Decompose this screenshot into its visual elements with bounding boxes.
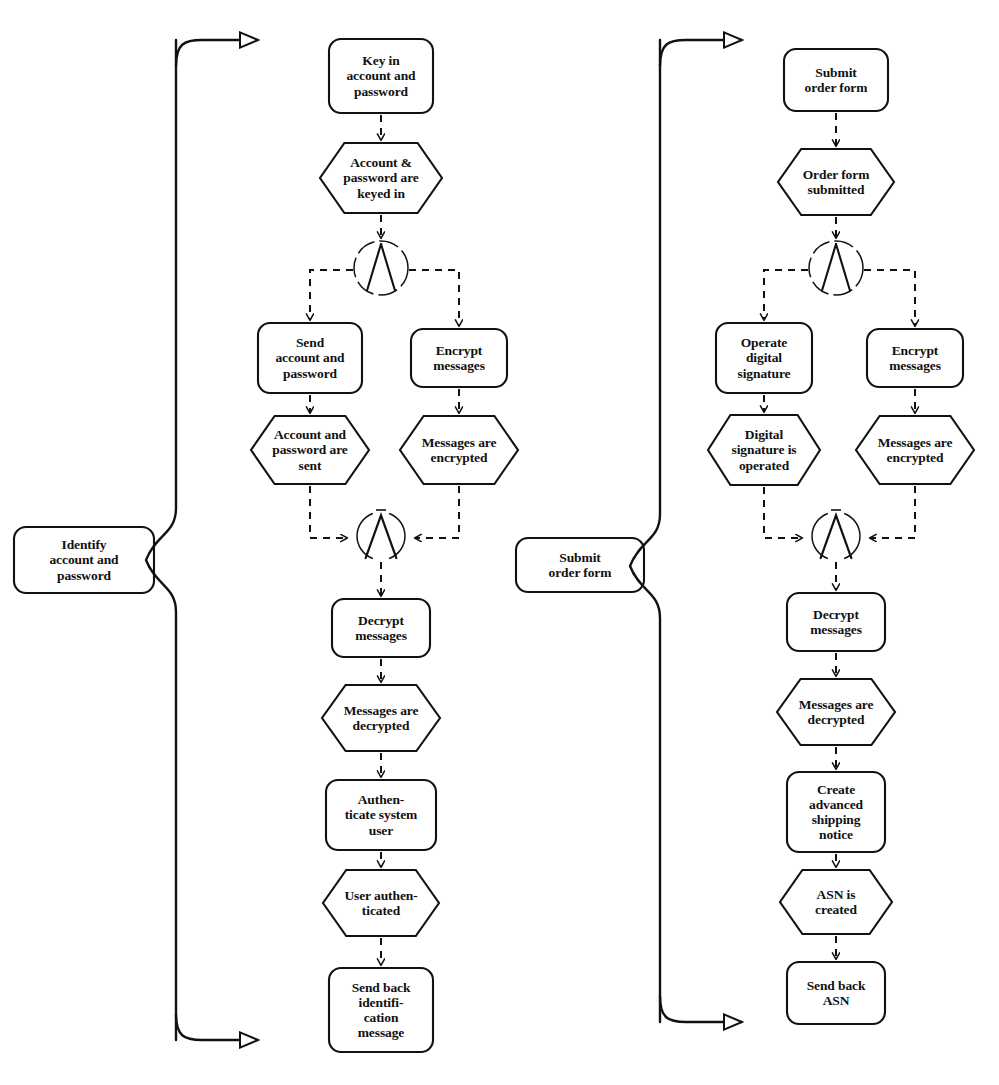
function-node-r9 xyxy=(787,593,885,651)
and-join-connector-right-arc-l8 xyxy=(389,513,405,558)
and-split-connector-circle-r3 xyxy=(809,241,863,295)
and-split-connector-circle-l3 xyxy=(354,241,408,295)
flow-join-left-r xyxy=(764,487,802,538)
function-node-r5 xyxy=(867,329,963,387)
epc-diagram-canvas: Key in account and passwordAccount & pas… xyxy=(0,0,999,1085)
flow-split-left-r xyxy=(764,270,808,320)
lane-exit-arrow-lane-submit xyxy=(660,996,742,1022)
event-node-r7 xyxy=(856,416,974,484)
and-join-connector-chevron-l8 xyxy=(366,515,397,558)
flow-split-left-l xyxy=(310,270,353,320)
lane-exit-arrow-lane-identify xyxy=(176,1014,258,1040)
flow-join-right-l xyxy=(415,486,459,538)
and-join-connector-left-arc-l8 xyxy=(357,513,373,558)
event-node-r12 xyxy=(780,870,892,934)
and-join-connector-chevron-r8 xyxy=(821,515,852,558)
function-node-l11 xyxy=(326,780,436,850)
flow-join-left-l xyxy=(310,486,347,538)
and-join-connector-left-arc-r8 xyxy=(812,513,828,558)
and-join-connector-right-arc-r8 xyxy=(844,513,860,558)
event-node-l6 xyxy=(251,416,369,484)
lane-brace-lane-submit xyxy=(630,40,660,1022)
flow-split-right-l xyxy=(409,270,459,326)
lane-entry-arrow-lane-submit xyxy=(660,40,742,66)
lane-box-lane-submit xyxy=(516,538,644,592)
function-node-l1 xyxy=(329,39,433,113)
function-node-l4 xyxy=(258,323,362,393)
function-node-r4 xyxy=(716,323,812,393)
function-node-l5 xyxy=(411,329,507,387)
function-node-l13 xyxy=(329,968,433,1052)
flow-join-right-r xyxy=(870,486,915,538)
event-node-r10 xyxy=(777,679,895,745)
function-node-r13 xyxy=(787,962,885,1024)
event-node-l10 xyxy=(322,685,440,751)
function-node-r1 xyxy=(784,49,888,111)
event-node-l12 xyxy=(323,870,439,936)
diagram-vector-layer xyxy=(0,0,999,1085)
event-node-r2 xyxy=(778,149,894,215)
function-node-r11 xyxy=(787,772,885,852)
event-node-l2 xyxy=(320,143,442,213)
lane-entry-arrow-lane-identify xyxy=(176,40,258,66)
flow-split-right-r xyxy=(864,270,915,326)
event-node-l7 xyxy=(400,416,518,484)
lane-box-lane-identify xyxy=(14,527,154,593)
event-node-r6 xyxy=(708,415,820,485)
function-node-l9 xyxy=(332,599,430,657)
